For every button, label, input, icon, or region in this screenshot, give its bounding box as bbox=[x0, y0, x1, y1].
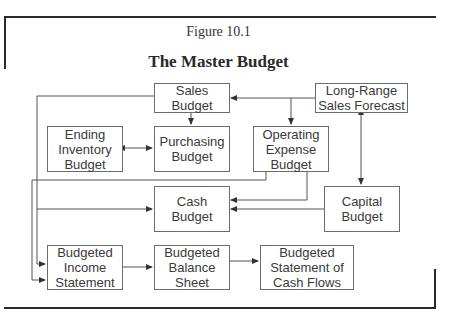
ending-inventory-budget-box: Ending Inventory Budget bbox=[47, 126, 123, 172]
operating-expense-budget-box: Operating Expense Budget bbox=[253, 126, 329, 172]
long-range-forecast-box: Long-Range Sales Forecast bbox=[315, 83, 408, 113]
budgeted-balance-sheet-box: Budgeted Balance Sheet bbox=[154, 245, 230, 290]
capital-budget-box: Capital Budget bbox=[324, 186, 400, 232]
cash-budget-box: Cash Budget bbox=[154, 186, 230, 232]
budgeted-income-statement-box: Budgeted Income Statement bbox=[47, 245, 123, 290]
budgeted-cash-flows-box: Budgeted Statement of Cash Flows bbox=[260, 245, 354, 290]
purchasing-budget-box: Purchasing Budget bbox=[154, 126, 230, 172]
sales-budget-box: Sales Budget bbox=[154, 83, 230, 113]
